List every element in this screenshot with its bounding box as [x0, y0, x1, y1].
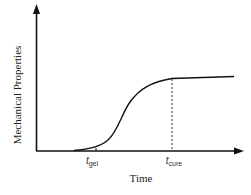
x-axis: [36, 148, 244, 155]
y-axis: [33, 4, 40, 151]
y-axis-label: Mechanical Properties: [11, 46, 23, 145]
y-axis-arrow-icon: [33, 4, 40, 14]
t-cure-label: tcure: [166, 155, 182, 167]
x-axis-label: Time: [130, 172, 153, 184]
x-axis-arrow-icon: [234, 148, 244, 155]
diagram-canvas: [0, 0, 251, 195]
property-curve: [74, 77, 234, 151]
t-gel-label: tgel: [86, 155, 98, 167]
